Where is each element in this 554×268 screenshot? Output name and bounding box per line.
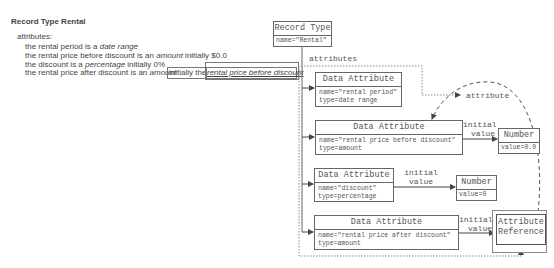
number-box-0[interactable]: Number value=0	[456, 175, 497, 201]
initial-value-label-1: initialvalue	[463, 120, 495, 138]
attribute-label: attribute	[466, 91, 509, 100]
attribute-reference-line1: Attribute	[497, 217, 545, 227]
attributes-label: attributes	[309, 54, 357, 63]
data-attribute-header: Data Attribute	[316, 121, 462, 135]
number-box-0-0[interactable]: Number value=0.0	[498, 128, 540, 154]
initial-value-label-3: initialvalue	[459, 215, 492, 233]
initial-value-label-2: initialvalue	[403, 168, 439, 186]
data-attribute-body: name="rental price after discount" type=…	[315, 230, 458, 250]
record-type-box[interactable]: Record Type name="Rental"	[273, 21, 332, 47]
data-attribute-body: name="discount" type=percentage	[315, 183, 393, 203]
data-attribute-body: name="rental price before discount" type…	[316, 135, 462, 155]
data-attribute-header: Data Attribute	[316, 73, 401, 87]
attribute-reference-box: Attribute Reference	[496, 214, 546, 245]
number-body: value=0	[457, 190, 496, 200]
number-header: Number	[457, 176, 496, 190]
data-attribute-price-after[interactable]: Data Attribute name="rental price after …	[314, 215, 459, 250]
data-attribute-price-before[interactable]: Data Attribute name="rental price before…	[315, 120, 463, 155]
data-attribute-discount[interactable]: Data Attribute name="discount" type=perc…	[314, 168, 394, 202]
data-attribute-header: Data Attribute	[315, 169, 393, 183]
data-attribute-rental-period[interactable]: Data Attribute name="rental period" type…	[315, 72, 402, 107]
data-attribute-body: name="rental period" type=date range	[316, 87, 401, 107]
number-body: value=0.0	[499, 143, 539, 153]
record-type-header: Record Type	[274, 22, 331, 36]
number-header: Number	[499, 129, 539, 143]
attribute-reference-outer[interactable]: Attribute Reference	[492, 210, 547, 253]
attribute-reference-line2: Reference	[497, 227, 545, 237]
data-attribute-header: Data Attribute	[315, 216, 458, 230]
record-type-body: name="Rental"	[274, 36, 331, 46]
